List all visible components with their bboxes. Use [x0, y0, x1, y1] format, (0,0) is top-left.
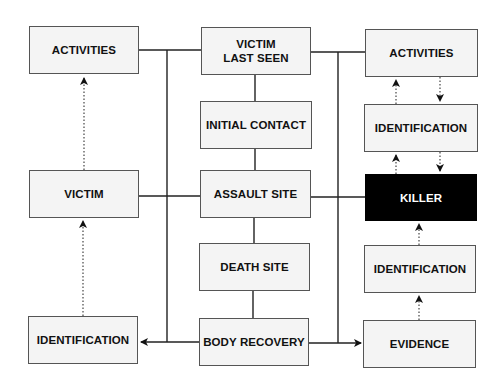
killer-box: KILLER [365, 174, 477, 221]
left-identification-box: IDENTIFICATION [28, 316, 138, 364]
right-identification-lower-box: IDENTIFICATION [364, 245, 476, 293]
initial-contact-box: INITIAL CONTACT [200, 101, 312, 149]
right-activities-label: ACTIVITIES [389, 46, 453, 60]
left-victim-label: VICTIM [64, 187, 104, 201]
left-activities-box: ACTIVITIES [29, 26, 139, 74]
death-site-label: DEATH SITE [220, 260, 289, 274]
right-identification-lower-label: IDENTIFICATION [374, 262, 467, 276]
left-identification-label: IDENTIFICATION [37, 333, 130, 347]
assault-site-box: ASSAULT SITE [200, 170, 311, 218]
right-identification-upper-box: IDENTIFICATION [364, 104, 478, 152]
evidence-label: EVIDENCE [390, 337, 450, 351]
body-recovery-label: BODY RECOVERY [203, 335, 305, 349]
left-victim-box: VICTIM [29, 170, 139, 218]
right-identification-upper-label: IDENTIFICATION [375, 121, 468, 135]
left-activities-label: ACTIVITIES [52, 43, 116, 57]
body-recovery-box: BODY RECOVERY [199, 318, 309, 366]
right-activities-box: ACTIVITIES [365, 29, 478, 77]
victim-last-seen-label: VICTIM LAST SEEN [223, 37, 288, 65]
evidence-box: EVIDENCE [363, 320, 476, 368]
death-site-box: DEATH SITE [199, 243, 310, 291]
killer-label: KILLER [400, 191, 442, 205]
assault-site-label: ASSAULT SITE [214, 187, 297, 201]
victim-last-seen-box: VICTIM LAST SEEN [201, 27, 311, 75]
initial-contact-label: INITIAL CONTACT [206, 118, 306, 132]
